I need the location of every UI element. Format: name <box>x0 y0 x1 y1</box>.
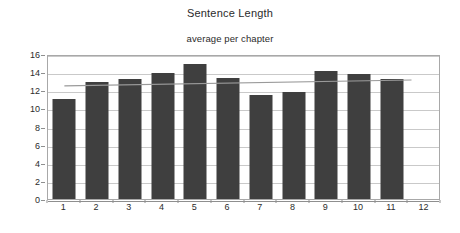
y-axis-tick <box>41 164 45 165</box>
bar <box>249 95 272 199</box>
bar <box>86 82 109 199</box>
bar <box>118 79 141 199</box>
chart-title: Sentence Length <box>0 7 460 19</box>
bar <box>217 78 240 199</box>
bar-slot <box>277 56 310 199</box>
x-axis-tick <box>309 200 310 203</box>
bar-slot <box>81 56 114 199</box>
y-axis-label: 0 <box>35 195 40 205</box>
bar-slot <box>245 56 278 199</box>
bar-slot <box>179 56 212 199</box>
x-axis-label: 3 <box>126 202 131 212</box>
x-axis-label: 12 <box>419 202 429 212</box>
y-axis-label: 2 <box>35 177 40 187</box>
bar-slot <box>343 56 376 199</box>
x-axis-label: 9 <box>323 202 328 212</box>
x-axis-tick <box>276 200 277 203</box>
y-axis-tick <box>41 55 45 56</box>
bar-slot <box>146 56 179 199</box>
y-axis-label: 16 <box>30 50 40 60</box>
sentence-length-chart: Sentence Length average per chapter 0246… <box>0 0 460 233</box>
bar-slot <box>408 56 441 199</box>
x-axis-label: 5 <box>192 202 197 212</box>
chart-subtitle: average per chapter <box>0 33 460 44</box>
x-axis-label: 10 <box>353 202 363 212</box>
x-axis-tick <box>440 200 441 203</box>
y-axis-label: 4 <box>35 159 40 169</box>
bar <box>184 64 207 199</box>
y-axis-label: 12 <box>30 86 40 96</box>
x-axis-label: 4 <box>159 202 164 212</box>
x-axis-label: 11 <box>386 202 395 212</box>
x-axis-label: 1 <box>61 202 66 212</box>
x-axis-tick <box>243 200 244 203</box>
bar-slot <box>48 56 81 199</box>
bar <box>315 71 338 199</box>
x-axis-label: 2 <box>94 202 99 212</box>
y-axis-label: 8 <box>35 123 40 133</box>
bar <box>380 79 403 199</box>
bar-slot <box>310 56 343 199</box>
x-axis-tick <box>145 200 146 203</box>
x-axis-tick <box>407 200 408 203</box>
y-axis-tick <box>41 146 45 147</box>
x-axis-tick <box>112 200 113 203</box>
bar-slot <box>212 56 245 199</box>
y-axis: 0246810121416 <box>0 55 45 200</box>
bar <box>282 92 305 199</box>
x-axis-label: 6 <box>225 202 230 212</box>
bar-slot <box>376 56 409 199</box>
bar <box>53 99 76 199</box>
y-axis-tick <box>41 128 45 129</box>
x-axis-tick <box>79 200 80 203</box>
x-axis-tick <box>374 200 375 203</box>
x-axis-tick <box>47 200 48 203</box>
x-axis-label: 8 <box>290 202 295 212</box>
bar-series <box>48 56 439 199</box>
y-axis-tick <box>41 182 45 183</box>
x-axis-label: 7 <box>257 202 262 212</box>
plot-area <box>47 55 440 200</box>
y-axis-tick <box>41 109 45 110</box>
y-axis-label: 10 <box>30 104 40 114</box>
bar <box>151 73 174 199</box>
x-axis: 123456789101112 <box>47 202 440 220</box>
y-axis-tick <box>41 91 45 92</box>
y-axis-tick <box>41 73 45 74</box>
y-axis-label: 14 <box>30 68 40 78</box>
x-axis-tick <box>341 200 342 203</box>
bar-slot <box>114 56 147 199</box>
x-axis-tick <box>178 200 179 203</box>
y-axis-label: 6 <box>35 141 40 151</box>
bar <box>348 74 371 199</box>
y-axis-tick <box>41 200 45 201</box>
x-axis-tick <box>210 200 211 203</box>
